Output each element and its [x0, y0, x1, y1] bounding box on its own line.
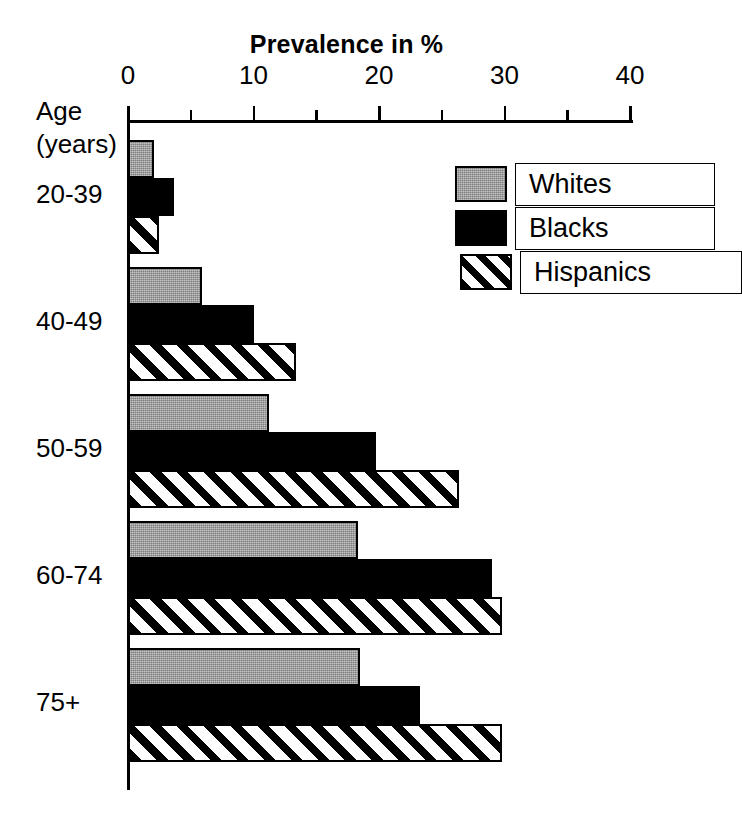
category-label-50-59: 50-59 — [36, 433, 103, 464]
y-axis-title-line1: Age — [36, 98, 113, 125]
bar-whites-75+ — [128, 648, 360, 686]
bar-blacks-75+ — [128, 686, 420, 724]
bar-whites-20-39 — [128, 140, 154, 178]
x-tick-label-10: 10 — [224, 62, 284, 88]
x-tick-0 — [127, 106, 130, 122]
bar-hispanics-20-39 — [128, 216, 159, 254]
bar-hispanics-40-49 — [128, 343, 296, 381]
bar-blacks-50-59 — [128, 432, 376, 470]
y-axis-title-line2: (years) — [36, 131, 113, 158]
x-minor-tick-25 — [441, 110, 444, 122]
legend-swatch-hispanics — [460, 254, 512, 290]
x-tick-10 — [253, 106, 256, 122]
x-tick-label-20: 20 — [349, 62, 409, 88]
bar-whites-50-59 — [128, 394, 269, 432]
bar-hispanics-75+ — [128, 724, 502, 762]
x-tick-label-30: 30 — [475, 62, 535, 88]
bar-hispanics-50-59 — [128, 470, 459, 508]
x-tick-label-40: 40 — [600, 62, 660, 88]
bar-whites-60-74 — [128, 521, 358, 559]
x-minor-tick-15 — [315, 110, 318, 122]
bar-blacks-20-39 — [128, 178, 174, 216]
legend-label-hispanics: Hispanics — [520, 251, 742, 294]
bar-whites-40-49 — [128, 267, 202, 305]
bar-blacks-40-49 — [128, 305, 254, 343]
bar-hispanics-60-74 — [128, 597, 502, 635]
legend-label-blacks: Blacks — [515, 207, 715, 250]
x-tick-20 — [378, 106, 381, 122]
category-label-75+: 75+ — [36, 687, 80, 718]
x-tick-label-0: 0 — [98, 62, 158, 88]
legend-swatch-whites — [455, 166, 507, 202]
x-minor-tick-35 — [566, 110, 569, 122]
legend-label-whites: Whites — [515, 163, 715, 206]
category-label-40-49: 40-49 — [36, 306, 103, 337]
x-tick-30 — [504, 106, 507, 122]
bar-blacks-60-74 — [128, 559, 492, 597]
category-label-60-74: 60-74 — [36, 560, 103, 591]
x-axis-line — [128, 120, 633, 123]
legend-swatch-blacks — [455, 210, 507, 246]
x-minor-tick-5 — [190, 110, 193, 122]
category-label-20-39: 20-39 — [36, 179, 103, 210]
x-tick-40 — [629, 106, 632, 122]
